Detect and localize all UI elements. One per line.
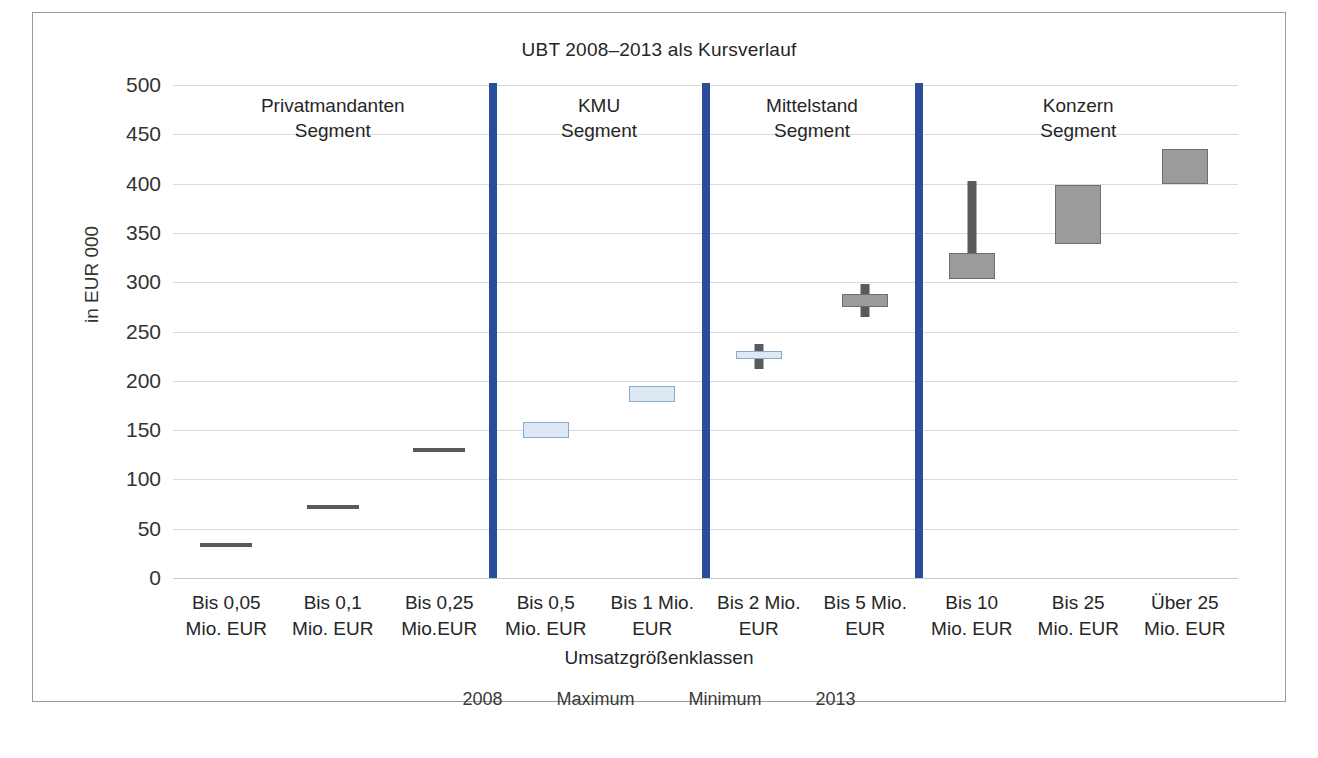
y-axis-label: in EUR 000 — [81, 226, 103, 323]
y-tick-label: 0 — [149, 566, 161, 590]
candle-marker — [310, 85, 356, 578]
x-tick-label-line: Mio. EUR — [931, 616, 1012, 642]
segment-divider — [915, 83, 923, 578]
legend-item-label: 2008 — [462, 689, 502, 710]
y-tick-label: 250 — [126, 320, 161, 344]
legend-item[interactable]: Minimum — [689, 689, 762, 710]
y-tick-label: 100 — [126, 467, 161, 491]
legend-item[interactable]: 2008 — [462, 689, 502, 710]
candle-marker — [1162, 85, 1208, 578]
x-tick-label-line: EUR — [717, 616, 800, 642]
y-tick-label: 400 — [126, 172, 161, 196]
x-tick-label-line: Mio. EUR — [292, 616, 373, 642]
x-tick-label-line: Mio. EUR — [1038, 616, 1119, 642]
x-tick-label-line: EUR — [824, 616, 907, 642]
legend-item-label: 2013 — [816, 689, 856, 710]
candle-marker — [416, 85, 462, 578]
chart-title: UBT 2008–2013 als Kursverlauf — [33, 39, 1285, 61]
y-tick-label: 350 — [126, 221, 161, 245]
x-tick-label: Bis 1 Mio.EUR — [611, 590, 694, 642]
candle-marker — [203, 85, 249, 578]
x-tick-label: Bis 5 Mio.EUR — [824, 590, 907, 642]
segment-label: KMUSegment — [561, 93, 637, 143]
y-tick-label: 150 — [126, 418, 161, 442]
y-tick-label: 300 — [126, 270, 161, 294]
x-tick-label-line: Bis 10 — [931, 590, 1012, 616]
candle-body — [736, 351, 782, 359]
legend-item[interactable]: 2013 — [816, 689, 856, 710]
y-tick-label: 200 — [126, 369, 161, 393]
x-axis-label: Umsatzgrößenklassen — [33, 647, 1285, 669]
legend-item-label: Maximum — [556, 689, 634, 710]
x-tick-label-line: Bis 0,5 — [505, 590, 586, 616]
x-tick-label: Bis 0,25Mio.EUR — [401, 590, 477, 642]
candle-marker — [736, 85, 782, 578]
x-tick-label-line: Bis 2 Mio. — [717, 590, 800, 616]
x-tick-label-line: Bis 5 Mio. — [824, 590, 907, 616]
x-tick-label: Bis 2 Mio.EUR — [717, 590, 800, 642]
chart-figure: UBT 2008–2013 als Kursverlauf in EUR 000… — [32, 12, 1286, 702]
candle-marker — [1055, 85, 1101, 578]
x-tick-label: Bis 0,5Mio. EUR — [505, 590, 586, 642]
candle-body — [523, 422, 569, 438]
x-tick-label-line: Bis 0,1 — [292, 590, 373, 616]
flat-marker — [307, 505, 359, 509]
gridline — [173, 578, 1238, 579]
candle-marker — [949, 85, 995, 578]
x-tick-label-line: Über 25 — [1144, 590, 1225, 616]
x-tick-label: Bis 25Mio. EUR — [1038, 590, 1119, 642]
candle-body — [842, 294, 888, 307]
candle-marker — [629, 85, 675, 578]
x-tick-label-line: Bis 25 — [1038, 590, 1119, 616]
candle-body — [1055, 185, 1101, 244]
candle-body — [949, 253, 995, 280]
x-tick-label: Bis 0,1Mio. EUR — [292, 590, 373, 642]
y-tick-label: 450 — [126, 122, 161, 146]
candle-body — [1162, 149, 1208, 184]
segment-label-line: KMU — [561, 93, 637, 118]
x-tick-label: Über 25Mio. EUR — [1144, 590, 1225, 642]
x-tick-label-line: Bis 1 Mio. — [611, 590, 694, 616]
x-tick-label-line: Mio. EUR — [1144, 616, 1225, 642]
x-tick-label-line: Mio. EUR — [186, 616, 267, 642]
x-tick-label-line: EUR — [611, 616, 694, 642]
plot-area: 050100150200250300350400450500 Privatman… — [173, 85, 1238, 578]
segment-divider — [702, 83, 710, 578]
y-tick-label: 50 — [138, 517, 161, 541]
candle-body — [629, 386, 675, 403]
x-tick-label-line: Bis 0,05 — [186, 590, 267, 616]
flat-marker — [200, 543, 252, 547]
chart-legend: 2008MaximumMinimum2013 — [33, 689, 1285, 710]
segment-divider — [489, 83, 497, 578]
segment-label-line: Segment — [561, 118, 637, 143]
y-tick-label: 500 — [126, 73, 161, 97]
x-tick-label-line: Mio.EUR — [401, 616, 477, 642]
x-tick-label: Bis 10Mio. EUR — [931, 590, 1012, 642]
flat-marker — [413, 448, 465, 452]
x-tick-label-line: Mio. EUR — [505, 616, 586, 642]
x-tick-label: Bis 0,05Mio. EUR — [186, 590, 267, 642]
x-tick-label-line: Bis 0,25 — [401, 590, 477, 616]
candle-marker — [842, 85, 888, 578]
legend-item-label: Minimum — [689, 689, 762, 710]
candle-marker — [523, 85, 569, 578]
legend-item[interactable]: Maximum — [556, 689, 634, 710]
